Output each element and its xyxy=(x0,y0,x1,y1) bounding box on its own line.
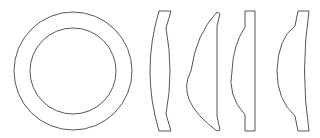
lens-plano-convex-flanged-profile xyxy=(231,11,255,131)
ring-outer-circle xyxy=(14,12,132,130)
ring-front-view xyxy=(14,12,132,130)
ring-inner-circle xyxy=(30,28,116,114)
lens-diagram xyxy=(0,0,320,138)
lens-plano-convex-curved-profile xyxy=(187,12,220,131)
lens-meniscus-flanged-profile xyxy=(277,11,309,131)
lens-biconvex-meniscus-profile xyxy=(150,11,171,131)
